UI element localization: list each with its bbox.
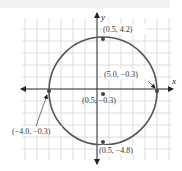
left-point-label: (−4.0, −0.3) [12,127,51,136]
bottom-point [101,140,105,144]
y-axis-label: y [100,12,105,22]
right-point-label: (5.0, −0.3) [104,70,138,79]
right-point [155,89,159,93]
right-leader-arrow [148,81,155,88]
top-point [101,37,105,41]
bottom-point-label: (0.5, −4.8) [99,146,133,155]
left-point [47,89,51,93]
top-point-label: (0.5, 4.2) [103,25,133,34]
center-point-label: (0.5, −0.3) [82,96,116,105]
x-axis-label: x [171,76,176,86]
coordinate-diagram: y x (0.5, 4.2) (5.0, −0.3) (0.5, −0.3) (… [0,0,182,171]
